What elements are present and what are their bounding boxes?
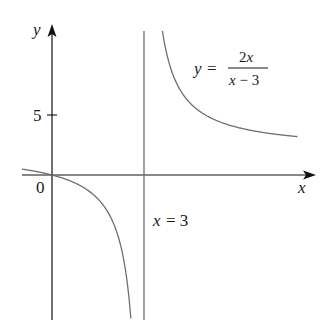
y-axis-label: y — [31, 20, 41, 39]
svg-text:= 3: = 3 — [166, 211, 188, 230]
svg-text:x: x — [152, 211, 161, 230]
y-axis — [47, 24, 57, 320]
asymptote-label: x = 3 — [152, 211, 188, 230]
svg-text:y: y — [192, 59, 202, 78]
x-axis-label: x — [297, 178, 306, 197]
y-tick-label-5: 5 — [33, 106, 42, 125]
origin-label: 0 — [36, 178, 45, 197]
curve-equation-label: y = 2x x − 3 — [192, 49, 268, 88]
svg-text:=: = — [207, 59, 217, 78]
function-graph: y x 0 5 x = 3 y = 2x x − 3 — [0, 0, 321, 332]
svg-text:2x: 2x — [239, 49, 254, 65]
x-axis — [22, 171, 316, 180]
svg-text:x − 3: x − 3 — [228, 72, 259, 88]
